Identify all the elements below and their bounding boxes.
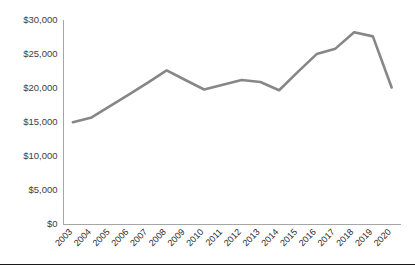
line-chart: $0$5,000$10,000$15,000$20,000$25,000$30,… — [0, 0, 415, 269]
y-axis-tick-label: $5,000 — [28, 184, 57, 195]
y-axis-tick-label: $0 — [47, 218, 58, 229]
chart-background — [0, 0, 415, 269]
y-axis-tick-label: $15,000 — [23, 116, 57, 127]
y-axis-tick-label: $25,000 — [23, 48, 57, 59]
y-axis-tick-label: $30,000 — [23, 14, 57, 25]
chart-canvas: $0$5,000$10,000$15,000$20,000$25,000$30,… — [0, 0, 415, 269]
y-axis-tick-label: $20,000 — [23, 82, 57, 93]
y-axis-tick-label: $10,000 — [23, 150, 57, 161]
